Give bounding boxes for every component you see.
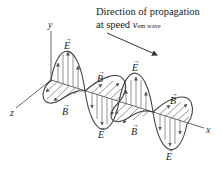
e-field-label: →E	[98, 130, 104, 140]
caption-prefix: at speed	[96, 19, 133, 30]
z-axis-label: z	[10, 108, 14, 118]
z-axis	[16, 80, 51, 108]
caption-sub: em wave	[137, 22, 160, 29]
e-field-vectors	[58, 52, 180, 146]
b-field-label: →B	[131, 127, 137, 137]
b-field-label: →B	[62, 107, 68, 117]
propagation-caption-line2: at speed vem wave	[96, 20, 161, 31]
propagation-arrow	[107, 33, 157, 55]
x-axis-label: x	[206, 125, 210, 135]
b-field-label: →B	[170, 96, 176, 106]
b-field-label: →B	[97, 74, 103, 84]
y-axis-label: y	[48, 20, 52, 30]
propagation-caption-line1: Direction of propagation	[96, 7, 200, 18]
x-axis	[51, 80, 204, 128]
e-field-label: →E	[166, 152, 172, 162]
e-field-curve	[51, 51, 187, 149]
e-field-label: →E	[132, 63, 138, 73]
e-field-label: →E	[64, 41, 70, 51]
